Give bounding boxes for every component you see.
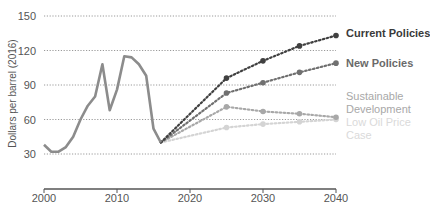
data-point [297, 70, 303, 76]
legend-current-policies: Current Policies [346, 27, 430, 40]
data-point [260, 109, 266, 115]
y-axis-label: Dollars per barrel (2016) [7, 34, 18, 154]
data-point [333, 60, 339, 66]
series-historical [44, 56, 161, 151]
data-point [260, 58, 266, 64]
data-point [224, 90, 230, 96]
data-point [333, 114, 339, 120]
data-point [297, 43, 303, 49]
y-tick-label: 30 [24, 148, 36, 160]
data-point [260, 121, 266, 127]
data-point [297, 119, 303, 125]
y-tick-label: 150 [18, 10, 36, 22]
legend-sustainable-development-1: Sustainable [346, 90, 404, 103]
series-new-policies [161, 63, 336, 142]
y-tick-label: 120 [18, 45, 36, 57]
data-point [224, 75, 230, 81]
data-point [224, 125, 230, 131]
x-tick-label: 2020 [178, 192, 202, 204]
data-point [260, 80, 266, 86]
x-tick-label: 2030 [251, 192, 275, 204]
y-tick-label: 60 [24, 114, 36, 126]
legend-sustainable-development-2: Development [346, 103, 411, 116]
legend-low-oil-price-2: Case [346, 129, 372, 142]
y-tick-label: 90 [24, 79, 36, 91]
legend-low-oil-price-1: Low Oil Price [346, 116, 411, 129]
legend-new-policies: New Policies [346, 57, 413, 70]
data-point [224, 104, 230, 110]
data-point [333, 33, 339, 39]
data-point [297, 111, 303, 117]
x-tick-label: 2000 [32, 192, 56, 204]
x-tick-label: 2040 [324, 192, 348, 204]
x-tick-label: 2010 [105, 192, 129, 204]
